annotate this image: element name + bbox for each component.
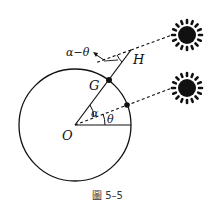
label-alpha-minus-theta: α−θ	[66, 46, 90, 59]
dashed-ray-H-to-sun1	[131, 35, 172, 50]
label-theta: θ	[107, 113, 114, 126]
arrowhead-icon	[93, 52, 98, 57]
sun-icon	[172, 20, 202, 50]
label-H: H	[132, 52, 145, 67]
label-G: G	[89, 78, 99, 93]
angle-arc-theta	[103, 114, 105, 125]
point-on-circle	[124, 102, 130, 108]
point-G	[106, 77, 112, 83]
angle-arc-alpha-minus-theta	[117, 55, 122, 62]
sun-icon	[172, 73, 202, 103]
diagram-canvas: O G H α θ α−θ 圖 5–5	[0, 0, 217, 209]
label-O: O	[62, 128, 73, 143]
figure-caption: 圖 5–5	[92, 190, 123, 201]
label-alpha: α	[91, 107, 99, 120]
